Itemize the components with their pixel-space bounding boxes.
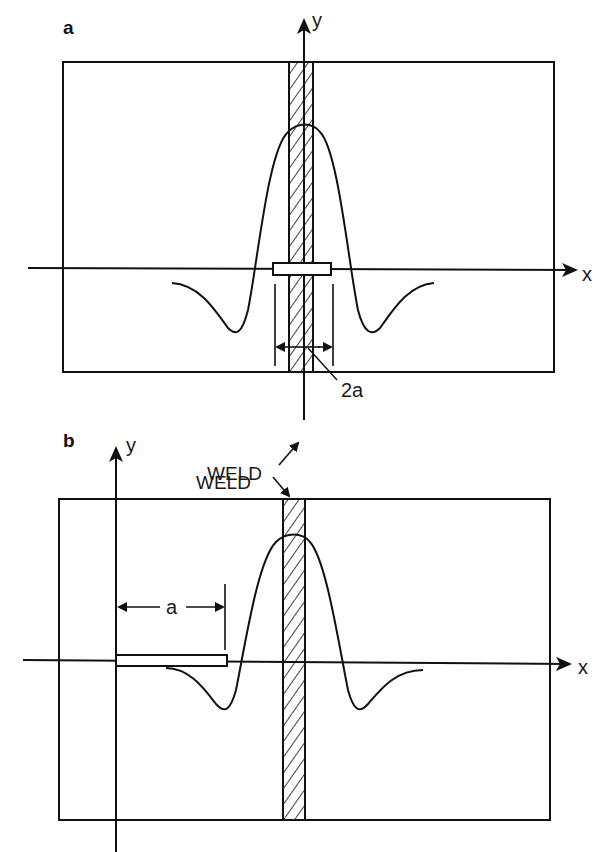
weld-crack-diagram: a y x 2a WELD (0, 0, 614, 852)
x-axis-label-a: x (582, 263, 592, 285)
panel-a: a y x 2a WELD (28, 9, 592, 484)
panel-b-label: b (63, 430, 75, 451)
weld-strip-b (283, 499, 305, 820)
panel-a-label: a (63, 17, 74, 38)
panel-b: b y x a WELD (23, 430, 588, 852)
weld-strip-a (289, 62, 313, 372)
weld-label-b: WELD (196, 472, 251, 493)
dimension-2a-label: 2a (341, 379, 364, 401)
x-axis-label-b: x (578, 656, 588, 678)
y-axis-label-b: y (126, 434, 136, 456)
dimension-a-label: a (166, 596, 178, 618)
y-axis-label-a: y (312, 9, 322, 31)
crack-b (116, 655, 227, 666)
crack-a (273, 263, 331, 275)
weld-callout-b: WELD (196, 472, 289, 496)
dimension-a: a (119, 584, 225, 650)
weld-arrow-a (279, 443, 298, 465)
